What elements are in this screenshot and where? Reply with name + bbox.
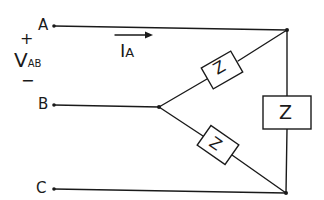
terminal-b-label: B [38, 97, 48, 112]
terminal-c-label: C [36, 181, 46, 196]
junction-top-right [285, 28, 289, 32]
junction-bottom-right [284, 191, 288, 195]
impedance-right-label: Z [279, 103, 292, 122]
junction-center [157, 105, 161, 109]
wire-diag-lower-b [232, 155, 286, 193]
current-label: IA [120, 42, 134, 60]
wire-a [54, 26, 287, 30]
current-subscript: A [125, 45, 134, 60]
terminal-a-label: A [38, 18, 48, 33]
voltage-plus: + [20, 31, 33, 47]
wire-diag-upper-b [238, 30, 287, 61]
voltage-subscript: AB [28, 58, 42, 69]
wire-c [54, 189, 286, 193]
voltage-v: V [14, 48, 28, 72]
terminal-a-dot[interactable] [52, 24, 56, 28]
terminal-c-dot[interactable] [52, 187, 56, 191]
voltage-minus: − [21, 73, 34, 89]
terminal-b-dot[interactable] [52, 103, 56, 107]
wire-diag-upper-a [159, 79, 207, 107]
wire-b [54, 105, 159, 107]
wire-diag-lower-a [159, 107, 203, 136]
current-arrow-head [145, 32, 153, 39]
voltage-symbol: VAB [14, 50, 41, 70]
circuit-diagram [0, 0, 324, 200]
wire-right-bottom [286, 129, 287, 193]
